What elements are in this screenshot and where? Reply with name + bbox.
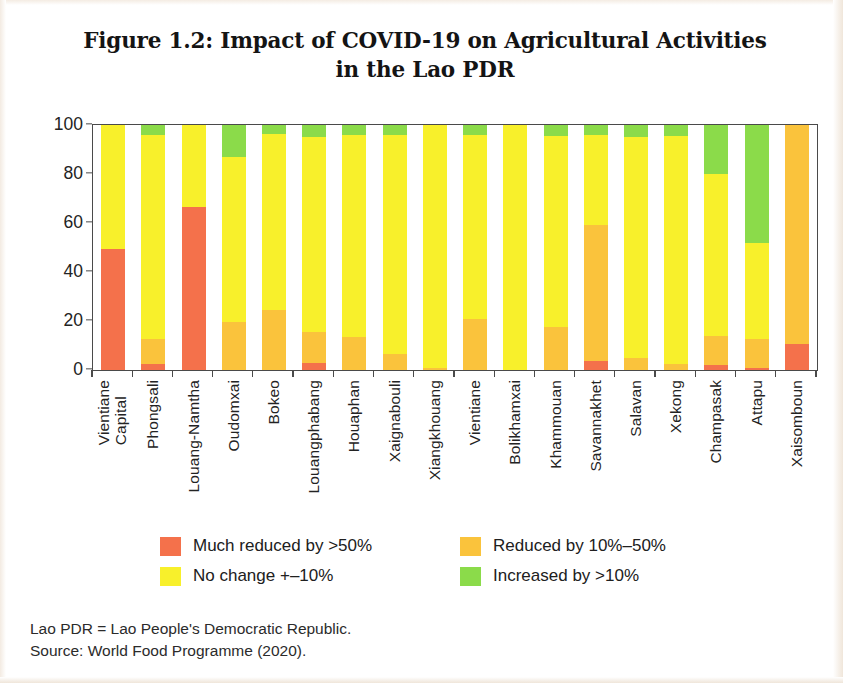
x-label-cell: Champasak xyxy=(695,380,735,520)
x-axis-category-label: Houaphan xyxy=(345,380,362,452)
bar-segment xyxy=(584,135,608,226)
footnote: Lao PDR = Lao People's Democratic Republ… xyxy=(30,618,351,662)
x-axis-category-label-line: Louangphabang xyxy=(305,380,322,493)
bar-segment xyxy=(141,339,165,364)
bar-segment xyxy=(584,125,608,135)
bar-segment xyxy=(342,125,366,135)
bar-segment xyxy=(544,136,568,327)
y-tick-label: 60 xyxy=(64,212,83,233)
x-label-cell: Bolikhamxai xyxy=(494,380,534,520)
stacked-bar[interactable] xyxy=(544,125,568,370)
stacked-bar[interactable] xyxy=(383,125,407,370)
bar-segment xyxy=(544,327,568,370)
x-axis-category-label: Xaignabouli xyxy=(385,380,402,462)
bar-slot xyxy=(254,125,294,370)
y-axis-label: Percent xyxy=(0,145,2,205)
x-axis-category-label-line: Savannakhet xyxy=(586,380,603,472)
x-label-cell: Xiangkhouang xyxy=(414,380,454,520)
bar-slot xyxy=(535,125,575,370)
x-tick-mark xyxy=(534,370,574,377)
stacked-bar[interactable] xyxy=(624,125,648,370)
bar-slot xyxy=(294,125,334,370)
legend-label: Much reduced by >50% xyxy=(193,536,372,556)
bar-slot xyxy=(375,125,415,370)
stacked-bar[interactable] xyxy=(141,125,165,370)
x-label-cell: Salavan xyxy=(615,380,655,520)
bar-segment xyxy=(262,125,286,134)
bar-segment xyxy=(624,358,648,370)
x-axis-category-label-line: Salavan xyxy=(626,380,643,437)
x-axis-category-label-line: Capital xyxy=(112,380,129,445)
x-axis-category-label-line: Vientiane xyxy=(95,380,112,445)
bar-segment xyxy=(544,125,568,136)
bar-segment xyxy=(584,361,608,370)
x-label-cell: Oudomxai xyxy=(213,380,253,520)
scan-edge-right xyxy=(833,0,843,683)
stacked-bar[interactable] xyxy=(302,125,326,370)
x-axis-category-label: Salavan xyxy=(626,380,643,437)
bar-segment xyxy=(745,243,769,340)
bar-segment xyxy=(302,332,326,363)
legend-item[interactable]: Much reduced by >50% xyxy=(160,536,460,556)
stacked-bar[interactable] xyxy=(584,125,608,370)
bar-slot xyxy=(214,125,254,370)
bar-slot xyxy=(495,125,535,370)
x-axis-category-label: Champasak xyxy=(707,380,724,464)
stacked-bar[interactable] xyxy=(262,125,286,370)
bar-segment xyxy=(785,344,809,370)
x-axis-category-label: Phongsali xyxy=(144,380,161,449)
x-tick-mark xyxy=(414,370,454,377)
x-label-cell: Savannakhet xyxy=(575,380,615,520)
x-axis-category-label: Vientiane xyxy=(466,380,483,445)
bar-segment xyxy=(704,174,728,336)
y-tick-label: 20 xyxy=(64,310,83,331)
legend-color-swatch xyxy=(160,537,181,556)
legend-item[interactable]: Increased by >10% xyxy=(460,566,700,586)
stacked-bar[interactable] xyxy=(463,125,487,370)
scan-edge-top xyxy=(0,0,843,5)
y-tick-label: 100 xyxy=(54,114,83,135)
stacked-bar[interactable] xyxy=(664,125,688,370)
scan-edge-left xyxy=(0,0,6,683)
bar-slot xyxy=(737,125,777,370)
stacked-bar[interactable] xyxy=(423,125,447,370)
bar-segment xyxy=(704,125,728,174)
x-tick-mark xyxy=(132,370,172,377)
stacked-bar[interactable] xyxy=(745,125,769,370)
x-axis-category-label-line: Vientiane xyxy=(466,380,483,445)
stacked-bar[interactable] xyxy=(785,125,809,370)
bar-segment xyxy=(342,337,366,370)
x-tick-mark xyxy=(374,370,414,377)
bar-segment xyxy=(222,125,246,157)
footnote-abbreviation: Lao PDR = Lao People's Democratic Republ… xyxy=(30,618,351,640)
x-label-cell: VientianeCapital xyxy=(92,380,132,520)
bar-segment xyxy=(624,125,648,137)
bar-segment xyxy=(463,125,487,135)
x-axis-category-label-line: Xaignabouli xyxy=(385,380,402,462)
x-label-cell: Louang-Namtha xyxy=(172,380,212,520)
x-axis-category-label: Louang-Namtha xyxy=(184,380,201,492)
bar-segment xyxy=(101,125,125,249)
stacked-bar[interactable] xyxy=(101,125,125,370)
bar-segment xyxy=(664,136,688,364)
x-tick-mark xyxy=(253,370,293,377)
stacked-bar[interactable] xyxy=(182,125,206,370)
stacked-bar[interactable] xyxy=(704,125,728,370)
x-axis-category-label: Savannakhet xyxy=(586,380,603,472)
bar-segment xyxy=(302,137,326,332)
figure-title: Figure 1.2: Impact of COVID-19 on Agricu… xyxy=(60,26,790,84)
stacked-bar[interactable] xyxy=(222,125,246,370)
x-tick-mark xyxy=(736,370,776,377)
bar-segment xyxy=(785,125,809,344)
bar-segment xyxy=(141,125,165,135)
bar-segment xyxy=(463,319,487,370)
bar-slot xyxy=(334,125,374,370)
legend-item[interactable]: No change +–10% xyxy=(160,566,460,586)
bar-segment xyxy=(745,339,769,367)
x-tick-mark xyxy=(172,370,212,377)
stacked-bar[interactable] xyxy=(503,125,527,370)
legend-item[interactable]: Reduced by 10%–50% xyxy=(460,536,700,556)
stacked-bar[interactable] xyxy=(342,125,366,370)
x-axis-category-label-line: Houaphan xyxy=(345,380,362,452)
x-axis-category-label-line: Attapu xyxy=(747,380,764,425)
